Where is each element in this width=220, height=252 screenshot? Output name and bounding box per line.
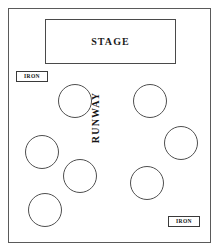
- iron-marker-bottom-right-label: IRON: [176, 219, 192, 225]
- round-table[interactable]: [133, 84, 167, 118]
- round-table[interactable]: [25, 135, 59, 169]
- iron-marker-left[interactable]: IRON: [16, 71, 48, 82]
- iron-marker-bottom-right[interactable]: IRON: [168, 216, 200, 227]
- stage-area[interactable]: STAGE: [45, 19, 176, 64]
- runway-label: RUNWAY: [90, 78, 101, 158]
- round-table[interactable]: [58, 84, 92, 118]
- iron-marker-left-label: IRON: [24, 74, 40, 80]
- round-table[interactable]: [164, 126, 198, 160]
- round-table[interactable]: [130, 166, 164, 200]
- stage-label: STAGE: [91, 36, 130, 47]
- round-table[interactable]: [28, 193, 62, 227]
- round-table[interactable]: [63, 159, 97, 193]
- venue-floor-plan: STAGE IRON IRON RUNWAY: [0, 0, 220, 252]
